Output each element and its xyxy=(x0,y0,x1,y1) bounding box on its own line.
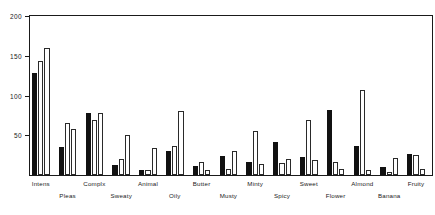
bar-group xyxy=(407,16,425,175)
x-axis-tick-label: Spicy xyxy=(274,192,290,199)
bar xyxy=(98,113,103,175)
x-axis-tick-label: Minty xyxy=(247,180,263,187)
bar xyxy=(125,135,130,175)
bar-group xyxy=(86,16,104,175)
bar-group xyxy=(327,16,345,175)
x-axis-tick-label: Banana xyxy=(378,192,401,199)
bar xyxy=(366,170,371,175)
bar-group xyxy=(246,16,264,175)
bar xyxy=(393,158,398,175)
bar xyxy=(413,155,418,175)
bar xyxy=(327,110,332,175)
bar-group xyxy=(32,16,50,175)
bar xyxy=(312,160,317,175)
x-axis-tick-label: Flower xyxy=(326,192,346,199)
bar xyxy=(139,170,144,175)
x-axis-tick-label: Almond xyxy=(351,180,373,187)
x-axis-tick-label: Musty xyxy=(220,192,238,199)
y-axis-tick-label: 100 xyxy=(10,92,22,99)
bar xyxy=(71,129,76,175)
x-axis-tick-label: Pleas xyxy=(59,192,75,199)
bar xyxy=(119,159,124,175)
bar-group xyxy=(273,16,291,175)
bar xyxy=(65,123,70,175)
bar xyxy=(92,120,97,175)
bar xyxy=(193,166,198,175)
bar xyxy=(86,113,91,175)
x-axis-tick-label: Sweet xyxy=(300,180,318,187)
x-axis-tick-label: Oily xyxy=(169,192,180,199)
bar-group xyxy=(220,16,238,175)
chart-root: 50100150200 IntensPleasComplxSweatyAnima… xyxy=(0,0,435,215)
bar xyxy=(273,142,278,175)
bar xyxy=(152,148,157,175)
bar-group xyxy=(193,16,211,175)
bar xyxy=(354,146,359,175)
x-axis-tick-label: Fruity xyxy=(408,180,425,187)
bar xyxy=(246,162,251,176)
bar xyxy=(44,48,49,175)
bar xyxy=(178,111,183,175)
bar-group xyxy=(380,16,398,175)
bar xyxy=(145,170,150,175)
bar xyxy=(286,159,291,175)
bar xyxy=(279,163,284,175)
x-axis-tick-label: Butter xyxy=(193,180,211,187)
bar-group xyxy=(354,16,372,175)
bar xyxy=(32,73,37,175)
y-axis-tick-label: 50 xyxy=(14,132,22,139)
x-axis-labels: IntensPleasComplxSweatyAnimalOilyButterM… xyxy=(30,176,432,215)
bar-group xyxy=(59,16,77,175)
bar xyxy=(339,169,344,175)
bar xyxy=(112,165,117,175)
bar xyxy=(300,157,305,175)
y-axis-tick-label: 150 xyxy=(10,52,22,59)
bar xyxy=(172,146,177,175)
bar xyxy=(205,170,210,175)
y-axis: 50100150200 xyxy=(0,0,29,215)
bar xyxy=(380,167,385,175)
bar xyxy=(232,151,237,175)
bar xyxy=(407,154,412,175)
bar xyxy=(38,61,43,175)
x-axis-tick-label: Complx xyxy=(83,180,105,187)
bar xyxy=(360,90,365,175)
bar-group xyxy=(300,16,318,175)
bars-layer xyxy=(30,16,432,175)
bar xyxy=(166,151,171,175)
bar xyxy=(226,169,231,175)
bar xyxy=(333,162,338,175)
bar xyxy=(220,156,225,175)
y-axis-tick-label: 200 xyxy=(10,13,22,20)
bar xyxy=(387,172,392,175)
x-axis-tick-label: Intens xyxy=(32,180,50,187)
bar xyxy=(306,120,311,175)
bar-group xyxy=(139,16,157,175)
bar-group xyxy=(112,16,130,175)
x-axis-tick-label: Sweaty xyxy=(110,192,132,199)
bar xyxy=(253,131,258,175)
bar xyxy=(420,169,425,175)
bar xyxy=(259,164,264,175)
x-axis-tick-label: Animal xyxy=(138,180,158,187)
bar-group xyxy=(166,16,184,175)
bar xyxy=(199,162,204,175)
bar xyxy=(59,147,64,175)
